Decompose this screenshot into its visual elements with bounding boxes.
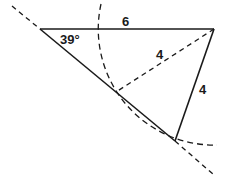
dashed-bd-label: 4: [156, 47, 164, 62]
side-bc: [175, 29, 214, 141]
side-bc-label: 4: [199, 82, 207, 97]
compass-arc: [98, 4, 217, 145]
extension-line-lower: [175, 141, 214, 175]
triangle-diagram: 39° 6 4 4: [0, 0, 227, 184]
angle-label: 39°: [60, 32, 80, 47]
side-ab-label: 6: [122, 14, 129, 29]
extension-line-upper: [12, 6, 40, 29]
